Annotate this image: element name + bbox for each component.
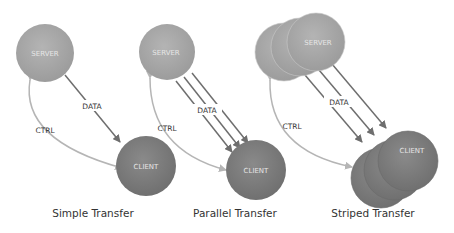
caption-striped-transfer: Striped Transfer: [313, 207, 433, 219]
caption-simple-transfer: Simple Transfer: [38, 207, 148, 219]
data-label: DATA: [329, 98, 349, 107]
client-node: [378, 131, 438, 191]
data-label: DATA: [82, 102, 102, 111]
data-arrow: [305, 75, 362, 142]
data-label: DATA: [197, 106, 217, 115]
server-label: SERVER: [152, 49, 180, 57]
ctrl-arrow: [29, 80, 122, 168]
data-arrow: [176, 81, 232, 152]
server-label: SERVER: [31, 50, 59, 58]
ctrl-label: CTRL: [157, 124, 177, 133]
ctrl-label: CTRL: [282, 122, 302, 131]
client-label: CLIENT: [244, 167, 270, 175]
client-label: CLIENT: [400, 147, 426, 155]
client-label: CLIENT: [134, 163, 160, 171]
server-label: SERVER: [304, 39, 332, 47]
caption-parallel-transfer: Parallel Transfer: [175, 207, 295, 219]
ctrl-label: CTRL: [35, 126, 55, 135]
diagram-canvas: SERVER CLIENT DATA CTRL SERVER CLIENT DA…: [0, 0, 454, 233]
